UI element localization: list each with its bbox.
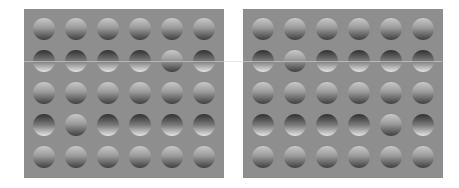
convex-circle bbox=[33, 82, 55, 104]
convex-circle bbox=[380, 18, 402, 40]
concave-circle bbox=[33, 114, 55, 136]
left-panel bbox=[24, 9, 224, 178]
convex-circle bbox=[252, 146, 274, 168]
bump-grid bbox=[33, 18, 215, 168]
convex-circle bbox=[97, 18, 119, 40]
convex-circle bbox=[65, 18, 87, 40]
convex-circle bbox=[161, 146, 183, 168]
concave-circle bbox=[193, 114, 215, 136]
convex-circle bbox=[284, 82, 306, 104]
convex-circle bbox=[193, 18, 215, 40]
concave-circle bbox=[161, 114, 183, 136]
bump-grid bbox=[252, 18, 434, 168]
convex-circle bbox=[33, 146, 55, 168]
convex-circle bbox=[129, 146, 151, 168]
convex-circle bbox=[316, 146, 338, 168]
concave-circle bbox=[97, 114, 119, 136]
convex-circle bbox=[65, 146, 87, 168]
concave-circle bbox=[348, 114, 370, 136]
convex-circle bbox=[380, 146, 402, 168]
concave-circle bbox=[316, 114, 338, 136]
convex-circle bbox=[284, 146, 306, 168]
convex-circle bbox=[412, 18, 434, 40]
convex-circle bbox=[380, 114, 402, 136]
concave-circle bbox=[412, 114, 434, 136]
convex-circle bbox=[161, 82, 183, 104]
convex-circle bbox=[193, 82, 215, 104]
convex-circle bbox=[33, 18, 55, 40]
convex-circle bbox=[161, 18, 183, 40]
convex-circle bbox=[284, 18, 306, 40]
convex-circle bbox=[65, 114, 87, 136]
convex-circle bbox=[380, 82, 402, 104]
convex-circle bbox=[193, 146, 215, 168]
concave-circle bbox=[129, 114, 151, 136]
convex-circle bbox=[348, 82, 370, 104]
convex-circle bbox=[129, 82, 151, 104]
convex-circle bbox=[97, 146, 119, 168]
convex-circle bbox=[316, 82, 338, 104]
convex-circle bbox=[252, 82, 274, 104]
concave-circle bbox=[252, 114, 274, 136]
right-panel bbox=[243, 9, 443, 178]
convex-circle bbox=[348, 18, 370, 40]
convex-circle bbox=[252, 18, 274, 40]
convex-circle bbox=[412, 146, 434, 168]
concave-circle bbox=[284, 114, 306, 136]
convex-circle bbox=[412, 82, 434, 104]
scan-line-artifact bbox=[24, 61, 442, 62]
convex-circle bbox=[129, 18, 151, 40]
convex-circle bbox=[65, 82, 87, 104]
convex-circle bbox=[316, 18, 338, 40]
convex-circle bbox=[97, 82, 119, 104]
convex-circle bbox=[348, 146, 370, 168]
